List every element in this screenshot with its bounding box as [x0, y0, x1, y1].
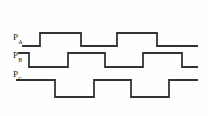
- waveform-canvas: [0, 0, 208, 116]
- waveform-figure: PA PB PC: [0, 0, 208, 116]
- signal-label-pc-subscript: C: [18, 76, 22, 82]
- signal-label-pb: PB: [13, 51, 22, 62]
- waveform-trace-pa: [22, 33, 198, 46]
- waveform-trace-pb: [18, 53, 198, 67]
- signal-label-pb-subscript: B: [18, 57, 22, 63]
- signal-label-pa: PA: [13, 33, 22, 44]
- signal-label-pa-subscript: A: [18, 39, 22, 45]
- signal-label-pc: PC: [13, 70, 22, 81]
- waveform-trace-pc: [16, 80, 198, 97]
